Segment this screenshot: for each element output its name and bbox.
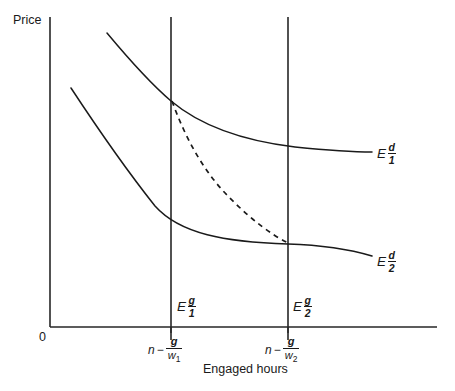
x-tick-label-2: n − g w2 (265, 336, 299, 364)
x-tick-label-1-numerator: g (169, 336, 180, 348)
x-tick-label-1-operator: − (157, 344, 164, 356)
adjustment-path (172, 101, 288, 243)
curve-label-supply-2-base: E (293, 300, 302, 314)
economics-diagram (0, 0, 455, 391)
demand-curve-2 (71, 88, 372, 256)
x-axis-label: Engaged hours (203, 363, 288, 376)
x-tick-label-1-prefix: n (148, 344, 155, 356)
x-tick-label-2-denominator-subscript: 2 (293, 354, 298, 364)
curve-label-demand-1-superscript: d (388, 142, 396, 153)
curve-label-demand-2-superscript: d (388, 250, 396, 261)
curve-label-demand-2: E d 2 (377, 250, 396, 273)
x-tick-label-1-denominator: w1 (166, 349, 183, 364)
curve-label-supply-2-subscript: 2 (304, 307, 312, 318)
curve-label-supply-2-superscript: g (304, 295, 312, 306)
curve-label-supply-1-superscript: g (188, 295, 196, 306)
x-tick-label-1: n − g w1 (148, 336, 182, 364)
curve-label-supply-2: E g 2 (293, 295, 312, 318)
x-tick-label-1-denominator-subscript: 1 (176, 354, 181, 364)
y-axis-label: Price (13, 14, 41, 27)
curve-label-demand-1-subscript: 1 (388, 154, 396, 165)
x-tick-label-2-operator: − (274, 344, 281, 356)
curve-label-demand-2-base: E (377, 255, 386, 269)
curve-label-supply-1: E g 1 (177, 295, 196, 318)
x-tick-label-1-denominator-base: w (168, 349, 176, 361)
curve-label-supply-1-subscript: 1 (188, 307, 196, 318)
curve-label-demand-1-base: E (377, 147, 386, 161)
curve-label-demand-2-subscript: 2 (388, 262, 396, 273)
figure-container: Price Engaged hours 0 E d 1 E d 2 E (0, 0, 455, 391)
x-tick-label-2-numerator: g (286, 336, 297, 348)
x-tick-label-2-denominator: w2 (283, 349, 300, 364)
origin-label: 0 (39, 331, 46, 344)
curve-label-supply-1-base: E (177, 300, 186, 314)
demand-curve-1 (107, 33, 372, 152)
curve-label-demand-1: E d 1 (377, 142, 396, 165)
x-tick-label-2-prefix: n (265, 344, 272, 356)
x-tick-label-2-denominator-base: w (285, 349, 293, 361)
